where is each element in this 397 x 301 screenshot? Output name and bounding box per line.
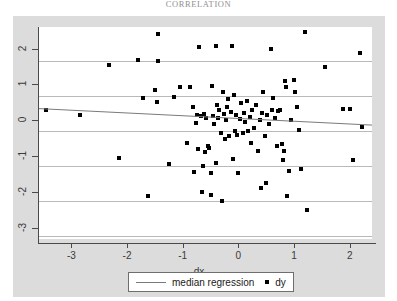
scatter-point	[216, 116, 220, 120]
scatter-point	[282, 149, 286, 153]
scatter-point	[275, 144, 279, 148]
scatter-point	[360, 125, 364, 129]
scatter-point	[264, 181, 268, 185]
gridline-y	[38, 166, 372, 167]
y-tick-label: -1	[17, 148, 28, 164]
scatter-point	[242, 111, 246, 115]
scatter-point	[156, 59, 160, 63]
scatter-point	[221, 90, 225, 94]
scatter-point	[191, 105, 195, 109]
scatter-point	[281, 158, 285, 162]
x-tick-label: -3	[61, 250, 81, 261]
y-tick-label: -3	[17, 220, 28, 236]
scatter-point	[271, 96, 275, 100]
scatter-point	[224, 118, 228, 122]
scatter-point	[358, 51, 362, 55]
scatter-point	[280, 142, 284, 146]
scatter-point	[207, 146, 211, 150]
scatter-point	[200, 190, 204, 194]
scatter-point	[230, 44, 234, 48]
scatter-point	[351, 158, 355, 162]
scatter-point	[227, 134, 231, 138]
scatter-point	[283, 79, 287, 83]
scatter-point	[297, 128, 301, 132]
scatter-point	[239, 101, 243, 105]
x-tick-label: -1	[173, 250, 193, 261]
legend-marker-swatch-icon	[265, 280, 269, 284]
scatter-point	[243, 120, 247, 124]
plot-region	[38, 27, 372, 239]
scatter-point	[188, 85, 192, 89]
scatter-point	[209, 193, 213, 197]
scatter-point	[219, 131, 223, 135]
scatter-point	[212, 122, 216, 126]
scatter-point	[192, 170, 196, 174]
scatter-point	[273, 116, 277, 120]
y-tick-mark	[32, 84, 38, 85]
scatter-point	[248, 115, 252, 119]
scatter-point	[167, 162, 171, 166]
gridline-y	[38, 61, 372, 62]
scatter-point	[252, 126, 256, 130]
scatter-point	[196, 147, 200, 151]
scatter-point	[107, 63, 111, 67]
scatter-point	[259, 186, 263, 190]
scatter-point	[267, 122, 271, 126]
scatter-point	[238, 117, 242, 121]
scatter-point	[146, 194, 150, 198]
scatter-point	[254, 103, 258, 107]
scatter-point	[194, 121, 198, 125]
scatter-point	[231, 157, 235, 161]
scatter-point	[229, 110, 233, 114]
x-tick-mark	[238, 243, 239, 248]
scatter-point	[211, 114, 215, 118]
scatter-point	[289, 118, 293, 122]
gridline-y	[38, 131, 372, 132]
scatter-point	[269, 47, 273, 51]
scatter-point	[226, 97, 230, 101]
scatter-point	[214, 161, 218, 165]
scatter-point	[246, 129, 250, 133]
scatter-point	[210, 84, 214, 88]
scatter-point	[323, 65, 327, 69]
scatter-point	[236, 171, 240, 175]
gridline-y	[38, 96, 372, 97]
scatter-point	[341, 107, 345, 111]
scatter-point	[232, 93, 236, 97]
scatter-point	[249, 141, 253, 145]
x-axis-line	[38, 243, 376, 244]
figure-panel: -3-2-1012 -3-2-1012 dx median regression…	[13, 16, 385, 297]
chart-legend: median regression dy	[128, 272, 294, 292]
page-header-caption: CORRELATION	[0, 0, 397, 9]
y-tick-mark	[32, 192, 38, 193]
scatter-point	[156, 32, 160, 36]
scatter-point	[201, 164, 205, 168]
scatter-point	[209, 171, 213, 175]
y-axis-line	[38, 27, 39, 243]
scatter-point	[278, 108, 282, 112]
y-tick-mark	[32, 120, 38, 121]
x-tick-label: 1	[284, 250, 304, 261]
gridline-y	[38, 236, 372, 237]
scatter-point	[295, 105, 299, 109]
legend-line-swatch-icon	[136, 282, 166, 283]
scatter-point	[287, 169, 291, 173]
scatter-point	[256, 149, 260, 153]
scatter-point	[217, 108, 221, 112]
scatter-point	[292, 78, 296, 82]
scatter-point	[285, 194, 289, 198]
scatter-point	[261, 90, 265, 94]
figure-page: CORRELATION -3-2-1012 -3-2-1012 dx media…	[0, 0, 397, 301]
y-tick-mark	[32, 49, 38, 50]
scatter-point	[250, 108, 254, 112]
x-tick-mark	[350, 243, 351, 248]
scatter-point	[299, 167, 303, 171]
scatter-point	[241, 131, 245, 135]
scatter-point	[223, 137, 227, 141]
x-tick-mark	[294, 243, 295, 248]
x-tick-label: -2	[117, 250, 137, 261]
scatter-point	[172, 95, 176, 99]
x-tick-label: 0	[228, 250, 248, 261]
scatter-point	[284, 85, 288, 89]
scatter-point	[153, 88, 157, 92]
